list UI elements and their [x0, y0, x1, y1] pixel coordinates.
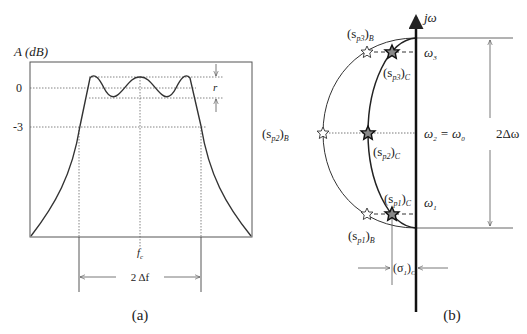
label-sp3C: (sp3)C — [383, 65, 411, 82]
label-sp3B: (sp3)B — [347, 26, 374, 43]
label-sp1C: (sp1)C — [384, 191, 412, 208]
center-freq-label: fc — [137, 246, 144, 261]
tick-minus3: -3 — [13, 120, 23, 134]
caption-b: (b) — [443, 307, 461, 324]
diagram-canvas: r A (dB) 0 -3 fc 2 Δf (a) jω — [0, 0, 527, 334]
bandpass-response-curve — [31, 76, 251, 236]
y-axis-label: A (dB) — [13, 44, 48, 59]
omega1-label: ω1 — [424, 195, 437, 212]
omega3-label: ω3 — [424, 45, 437, 62]
label-sigma1C: (σ1)C — [393, 261, 416, 277]
ripple-label: r — [213, 81, 218, 93]
panel-a-response-plot: r A (dB) 0 -3 fc 2 Δf (a) — [13, 44, 252, 324]
omega2-label: ω2 = ω0 — [424, 126, 465, 143]
j-omega-label: jω — [422, 10, 437, 25]
tick-zero: 0 — [16, 81, 22, 95]
panel-b-pole-plot: jω (sp3)B (sp3)C (sp2)B (sp2)C (sp1)C (s… — [262, 10, 520, 324]
label-sp2B: (sp2)B — [262, 126, 289, 143]
pole-sp2C-star-icon — [361, 126, 375, 139]
label-sp1B: (sp1)B — [348, 228, 375, 245]
caption-a: (a) — [132, 307, 149, 324]
bandwidth-omega-label: 2Δω — [496, 126, 520, 141]
label-sp2C: (sp2)C — [373, 144, 401, 161]
bandwidth-label: 2 Δf — [131, 271, 150, 283]
pole-sp3B-star-icon — [361, 46, 373, 58]
